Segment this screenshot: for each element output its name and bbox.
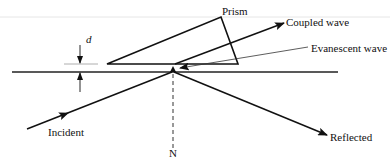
incident-label: Incident [48,127,84,138]
prism-coupling-diagram: Prism Coupled wave Evanescent wave d Inc… [0,0,390,161]
evanescent-wave-label: Evanescent wave [311,43,387,54]
incidence-point-icon [170,66,176,72]
evanescent-wave-pointer [180,47,308,68]
incident-ray [27,72,172,129]
prism-shape [107,17,238,64]
reflected-ray [174,72,327,135]
normal-label: N [169,148,177,159]
coupled-wave-label: Coupled wave [286,17,349,28]
prism-label: Prism [222,6,248,17]
gap-label: d [86,34,92,45]
reflected-label: Reflected [330,132,372,143]
